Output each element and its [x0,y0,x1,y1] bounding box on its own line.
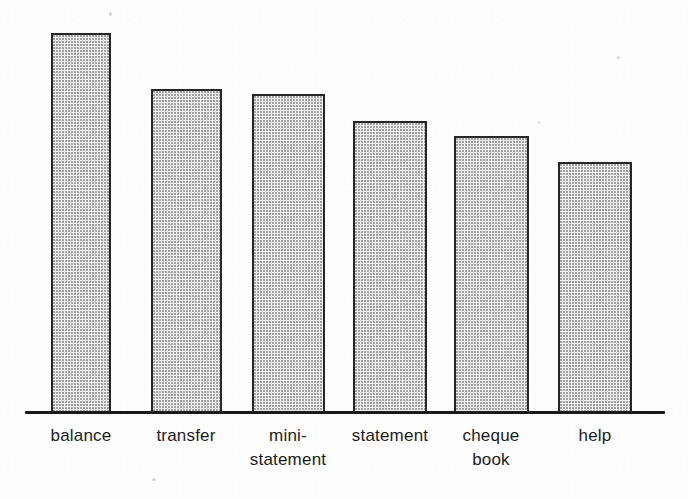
plot-area: balance transfer mini- statement stateme… [0,0,688,499]
scan-speckle [109,12,112,16]
x-tick-label-mini-statement: mini- statement [238,424,338,472]
bar-mini-statement [252,94,325,413]
x-tick-label-help: help [545,424,645,448]
bar-help [558,162,632,413]
scan-speckle [152,478,156,481]
bar-transfer [151,89,222,413]
bar-statement [353,121,427,413]
x-tick-label-transfer: transfer [136,424,236,448]
scan-speckle [617,56,620,59]
x-tick-label-cheque-book: cheque book [441,424,541,472]
x-tick-label-balance: balance [31,424,131,448]
scan-speckle [538,121,540,124]
bar-balance [51,33,111,413]
x-axis-line [25,411,665,414]
bar-chart: balance transfer mini- statement stateme… [0,0,688,499]
x-tick-label-statement: statement [340,424,440,448]
bar-cheque-book [454,136,529,413]
